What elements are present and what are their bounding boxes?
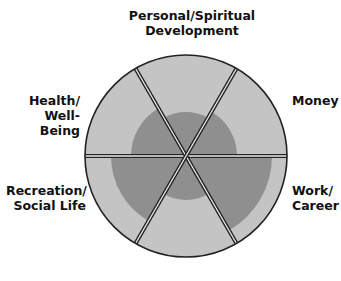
label-recreation-social-life: Recreation/ Social Life	[6, 183, 86, 213]
label-personal-development: Personal/Spiritual Development	[122, 8, 262, 38]
label-money: Money	[292, 93, 339, 108]
label-health-well-being: Health/ Well-Being	[6, 93, 80, 138]
wheel-diagram	[0, 0, 341, 281]
label-work-career: Work/ Career	[292, 183, 339, 213]
